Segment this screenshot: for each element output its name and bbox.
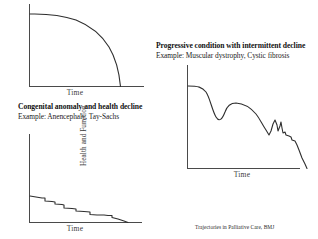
chart-axes bbox=[188, 65, 301, 169]
congenital-anomaly-plot bbox=[0, 0, 150, 100]
panel-congenital-anomaly-chart: Health and Function Time bbox=[0, 0, 150, 100]
y-axis-label: Health and Function bbox=[80, 105, 170, 166]
x-axis-label: Time bbox=[45, 224, 105, 233]
trajectory-curve bbox=[30, 196, 128, 223]
y-axis-label: Health and Function bbox=[0, 19, 12, 80]
y-axis-label: Health and Function bbox=[0, 155, 12, 216]
source-note: Trajectories in Palliative Care, BMJ bbox=[195, 224, 274, 230]
trajectory-curve bbox=[188, 86, 307, 169]
caption-example: Example: Muscular dystrophy, Cystic fibr… bbox=[156, 51, 305, 61]
chart-axes bbox=[30, 4, 145, 87]
x-axis-label: Time bbox=[212, 170, 272, 179]
panel-progressive-decline-chart: Health and Function Time bbox=[150, 62, 318, 192]
caption-progressive-condition: Progressive condition with intermittent … bbox=[156, 41, 305, 61]
figure-canvas: Health and Function Time Congenital anom… bbox=[0, 0, 318, 239]
trajectory-curve bbox=[30, 14, 121, 87]
caption-title: Progressive condition with intermittent … bbox=[156, 41, 305, 51]
x-axis-label: Time bbox=[45, 88, 105, 97]
